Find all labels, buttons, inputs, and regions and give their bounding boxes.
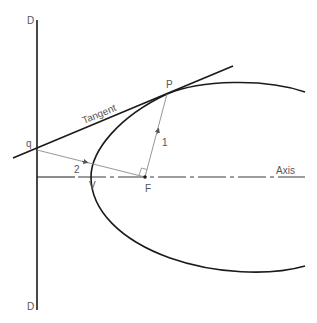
directrix-bottom-label: D — [27, 301, 34, 312]
focus-label: F — [145, 183, 151, 194]
point-q-label: q — [26, 138, 32, 149]
focus-point — [143, 175, 147, 179]
parabola-diagram: D D Tangent P q F V Axis 1 2 — [0, 0, 317, 323]
directrix-top-label: D — [27, 15, 34, 26]
axis-label: Axis — [276, 165, 295, 176]
segment-2-label: 2 — [74, 164, 80, 175]
vertex-label: V — [89, 180, 96, 191]
segment-2-arrow-icon — [82, 161, 86, 162]
point-p-label: P — [166, 79, 173, 90]
segment-1-label: 1 — [162, 137, 168, 148]
segment-1-line — [145, 94, 167, 177]
tangent-line — [13, 66, 233, 158]
